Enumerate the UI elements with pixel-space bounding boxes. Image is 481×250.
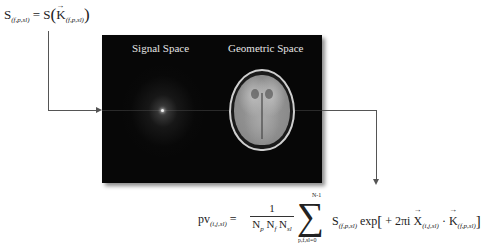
geometric-space-title: Geometric Space bbox=[228, 42, 303, 54]
connector-right-horizontal bbox=[322, 110, 377, 111]
summation-icon: ∑ bbox=[297, 196, 324, 236]
exp-function: exp bbox=[360, 214, 377, 228]
s-term: S bbox=[332, 214, 339, 228]
equals-sign: = bbox=[230, 212, 237, 226]
signal-subscript: (f,p,sl) bbox=[11, 16, 29, 24]
sum-lower-limit: p,f,sl=0 bbox=[298, 237, 316, 243]
equals-sign: = bbox=[33, 7, 40, 22]
n-p: N bbox=[252, 218, 260, 230]
close-paren: ) bbox=[84, 5, 90, 24]
n-f-sub: f bbox=[274, 225, 276, 233]
fraction-denominator: Np Nf Nsl bbox=[250, 218, 294, 233]
pixel-value-lhs: pv(i,j,sl) = bbox=[198, 212, 237, 227]
pv-symbol: pv bbox=[198, 212, 210, 226]
phase-coefficient: + 2πi bbox=[385, 214, 410, 228]
x-vector: X bbox=[413, 214, 422, 229]
reconstruction-equation: pv(i,j,sl) = 1 Np Nf Nsl N-1 ∑ p,f,sl=0 … bbox=[198, 200, 438, 248]
k-vector: K bbox=[449, 214, 458, 229]
dot-product: · bbox=[442, 214, 446, 228]
fraction-numerator: 1 bbox=[250, 202, 294, 215]
summation-term: S(f,p,sl) exp[ + 2πi X(i,j,sl) · K(f,p,s… bbox=[332, 212, 481, 229]
n-p-sub: p bbox=[260, 225, 264, 233]
brain-midline bbox=[261, 93, 263, 139]
arrow-down-icon bbox=[373, 179, 379, 185]
close-bracket: ] bbox=[476, 213, 481, 229]
connector-left-vertical bbox=[48, 31, 49, 111]
normalization-fraction: 1 Np Nf Nsl bbox=[250, 202, 294, 233]
open-bracket: [ bbox=[377, 213, 382, 229]
connector-left-horizontal bbox=[48, 110, 96, 111]
image-panel: Signal Space Geometric Space bbox=[102, 35, 322, 183]
n-sl: N bbox=[279, 218, 287, 230]
k-vector: K bbox=[56, 7, 65, 23]
pv-subscript: (i,j,sl) bbox=[210, 220, 227, 228]
connector-right-vertical bbox=[376, 110, 377, 180]
n-sl-sub: sl bbox=[287, 225, 292, 233]
fraction-bar bbox=[250, 216, 294, 217]
brain-ventricle-left bbox=[251, 89, 259, 99]
x-vector-sub: (i,j,sl) bbox=[422, 222, 439, 230]
k-vector-sub: (f,p,sl) bbox=[458, 222, 476, 230]
s-term-sub: (f,p,sl) bbox=[339, 222, 357, 230]
signal-equation: S(f,p,sl) = S(K(f,p,sl)) bbox=[4, 6, 90, 25]
k-vector-subscript: (f,p,sl) bbox=[66, 16, 84, 24]
signal-space-title: Signal Space bbox=[132, 42, 189, 54]
signal-function: S bbox=[43, 7, 50, 22]
k-space-center-dot bbox=[161, 109, 164, 112]
brain-ventricle-right bbox=[265, 89, 273, 99]
